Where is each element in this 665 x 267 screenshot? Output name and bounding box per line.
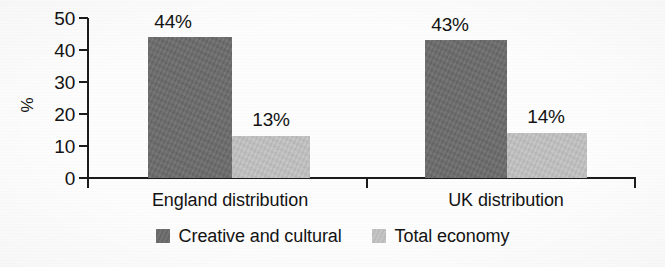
- value-label-uk-total-economy: 14%: [506, 107, 586, 126]
- x-axis-tick-end: [634, 179, 636, 188]
- y-axis-label-0: 0: [35, 169, 75, 188]
- x-axis-category-label-england: England distribution: [110, 190, 350, 210]
- legend-swatch-icon-creative-and-cultural: [156, 229, 170, 243]
- bar-uk-creative-and-cultural: [425, 40, 507, 178]
- bar-chart-figure: 50 40 30 20 10 0 % 44% 13% 43% 14% Engla…: [0, 0, 665, 267]
- bar-uk-total-economy: [507, 133, 587, 178]
- value-label-england-creative-and-cultural: 44%: [133, 12, 213, 31]
- bar-england-total-economy: [232, 136, 310, 178]
- x-axis-tick-start: [87, 179, 89, 188]
- x-axis-tick-divider: [366, 179, 368, 188]
- value-label-uk-creative-and-cultural: 43%: [410, 15, 490, 34]
- value-label-england-total-economy: 13%: [231, 110, 311, 129]
- legend-item-total-economy: Total economy: [372, 226, 510, 246]
- y-axis-title: %: [8, 85, 48, 125]
- legend-swatch-icon-total-economy: [372, 229, 386, 243]
- legend-item-creative-and-cultural: Creative and cultural: [156, 226, 342, 246]
- plot-area: [87, 18, 636, 178]
- chart-legend: Creative and cultural Total economy: [0, 226, 665, 246]
- bar-england-creative-and-cultural: [148, 37, 232, 178]
- legend-label-total-economy: Total economy: [395, 226, 510, 246]
- y-axis-label-40: 40: [35, 41, 75, 60]
- y-axis-label-50: 50: [35, 9, 75, 28]
- x-axis-category-label-uk: UK distribution: [386, 190, 626, 210]
- y-axis-label-10: 10: [35, 137, 75, 156]
- legend-label-creative-and-cultural: Creative and cultural: [179, 226, 342, 246]
